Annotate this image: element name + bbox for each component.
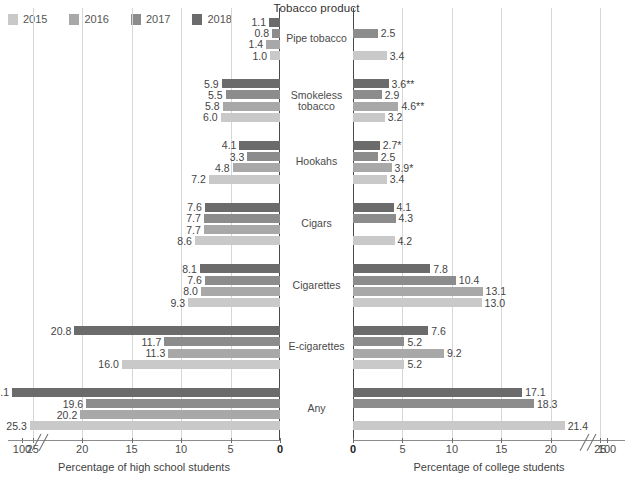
bar-group-item: 7.2 — [8, 175, 280, 184]
bar-group-item: 4.8 — [8, 163, 280, 172]
bar-pipe-tobacco-2015: 1.0 — [270, 51, 280, 60]
bar-group-item: 4.6** — [353, 102, 625, 111]
bar-hookahs-2016: 3.9* — [353, 163, 392, 172]
bar-e-cigarettes-2015: 5.2 — [353, 360, 404, 369]
bar-group-item: 20.8 — [8, 326, 280, 335]
bar-group-item: 21.4 — [353, 421, 625, 430]
panel-high-school: 1.10.81.41.05.95.55.86.04.13.34.87.27.67… — [8, 8, 280, 440]
tickmark — [82, 438, 83, 443]
bar-value-label: 2.7* — [383, 140, 402, 151]
bar-value-label: 4.3 — [399, 213, 414, 224]
x-tick-0: 0 — [277, 443, 283, 455]
bar-group-item: 17.1 — [353, 388, 625, 397]
bar-value-label: 2.9 — [385, 90, 400, 101]
bar-hookahs-2017: 2.5 — [353, 152, 378, 161]
bar-value-label: 19.6 — [63, 398, 83, 409]
tickmark — [452, 438, 453, 443]
gridline — [82, 8, 83, 440]
bar-value-label: 7.6 — [431, 325, 446, 336]
bar-cigarettes-2017: 7.6 — [205, 276, 280, 285]
bar-group-item: 20.2 — [8, 410, 280, 419]
bar-any-2017: 19.6 — [86, 399, 280, 408]
tobacco-product-chart: Tobacco product 2015201620172018 1.10.81… — [0, 0, 633, 482]
bar-value-label: 4.6** — [401, 101, 424, 112]
bar-value-label: 7.2 — [191, 174, 206, 185]
bar-group-item: 3.2 — [353, 113, 625, 122]
bar-value-label: 11.7 — [142, 337, 162, 348]
tickmark — [353, 438, 354, 443]
bar-value-label: 3.2 — [388, 112, 403, 123]
bar-group-item: 7.7 — [8, 225, 280, 234]
bar-group-item: 3.4 — [353, 175, 625, 184]
bar-cigars-2018: 4.1 — [353, 203, 394, 212]
tickmark — [181, 438, 182, 443]
x-tick-20: 20 — [76, 443, 88, 455]
bar-e-cigarettes-2016: 11.3 — [168, 349, 280, 358]
x-axis-label-left: Percentage of high school students — [8, 461, 280, 473]
x-tick-10: 10 — [175, 443, 187, 455]
x-tick-15: 15 — [495, 443, 507, 455]
category-label-e-cigarettes: E-cigarettes — [280, 342, 353, 354]
bar-value-label: 5.9 — [204, 79, 219, 90]
bar-e-cigarettes-2017: 11.7 — [164, 337, 280, 346]
panel-college: 2.53.43.6**2.94.6**3.22.7*2.53.9*3.44.14… — [353, 8, 625, 440]
bar-value-label: 4.1 — [222, 140, 237, 151]
x-axis-label-right: Percentage of college students — [353, 461, 625, 473]
bar-value-label: 7.6 — [187, 202, 202, 213]
bar-smokeless-tobacco-2018: 3.6** — [353, 79, 389, 88]
bar-smokeless-tobacco-2017: 5.5 — [226, 90, 280, 99]
x-tick-15: 15 — [126, 443, 138, 455]
bar-value-label: 20.2 — [57, 409, 77, 420]
bar-group-item: 8.6 — [8, 236, 280, 245]
bar-smokeless-tobacco-2018: 5.9 — [222, 79, 280, 88]
bar-hookahs-2015: 7.2 — [209, 175, 280, 184]
bar-value-label: 5.8 — [205, 101, 220, 112]
bar-cigars-2018: 7.6 — [205, 203, 280, 212]
bar-group-item: 7.6 — [8, 276, 280, 285]
bar-hookahs-2018: 4.1 — [239, 141, 280, 150]
bar-any-2018: 17.1 — [353, 388, 522, 397]
bar-pipe-tobacco-2017: 2.5 — [353, 29, 378, 38]
bar-hookahs-2015: 3.4 — [353, 175, 387, 184]
bar-value-label: 3.3 — [230, 151, 245, 162]
bar-group-item: 3.6** — [353, 79, 625, 88]
bar-value-label: 5.2 — [407, 359, 422, 370]
bar-value-label: 8.6 — [177, 236, 192, 247]
bar-value-label: 11.3 — [146, 348, 166, 359]
bar-group-item: 5.2 — [353, 360, 625, 369]
bar-value-label: 2.5 — [381, 28, 396, 39]
bar-value-label: 5.2 — [407, 337, 422, 348]
tickmark — [607, 438, 608, 443]
bar-value-label: 7.7 — [186, 213, 201, 224]
bar-value-label: 5.5 — [208, 90, 223, 101]
bar-value-label: 27.1 — [0, 387, 9, 398]
bar-group-item: 2.5 — [353, 152, 625, 161]
category-label-smokeless-tobacco: Smokeless tobacco — [280, 89, 353, 112]
bar-group-item: 2.7* — [353, 141, 625, 150]
bar-group-item: 7.8 — [353, 264, 625, 273]
bar-value-label: 2.5 — [381, 151, 396, 162]
bar-cigarettes-2018: 8.1 — [200, 264, 280, 273]
bar-group-item: 25.3 — [8, 421, 280, 430]
gridline — [231, 8, 232, 440]
bar-cigarettes-2015: 9.3 — [188, 298, 280, 307]
bar-value-label: 4.2 — [398, 236, 413, 247]
bar-cigarettes-2017: 10.4 — [353, 276, 456, 285]
bar-group-item: 8.1 — [8, 264, 280, 273]
bar-value-label: 17.1 — [525, 387, 545, 398]
bar-group-item: 5.2 — [353, 337, 625, 346]
bar-group-item: 5.9 — [8, 79, 280, 88]
bar-value-label: 3.4 — [390, 174, 405, 185]
bar-group-item: 2.9 — [353, 90, 625, 99]
bar-group-item: 13.1 — [353, 287, 625, 296]
x-tick-0: 0 — [350, 443, 356, 455]
bar-cigars-2016: 7.7 — [204, 225, 280, 234]
bar-group-item: 1.0 — [8, 51, 280, 60]
bar-smokeless-tobacco-2016: 5.8 — [223, 102, 280, 111]
bar-value-label: 3.9* — [395, 163, 414, 174]
bar-group-item: 4.1 — [8, 141, 280, 150]
category-label-cigars: Cigars — [280, 218, 353, 230]
x-tick-5: 5 — [399, 443, 405, 455]
bar-group-item: 18.3 — [353, 399, 625, 408]
category-label-pipe-tobacco: Pipe tobacco — [280, 33, 353, 45]
